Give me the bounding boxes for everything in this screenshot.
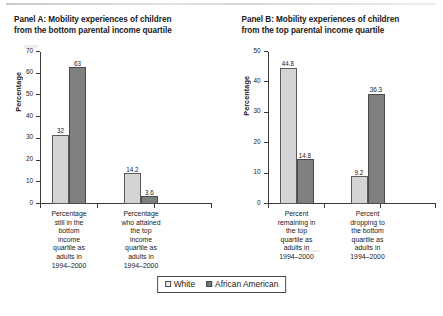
panel-b-ytick: 30 <box>264 112 268 113</box>
bar-panel-a-g1-african-american: 63 <box>69 67 86 204</box>
legend-label-african-american: African American <box>215 279 278 289</box>
cat-line: dropping to <box>335 219 401 228</box>
panel-a-title-line1: Panel A: Mobility experiences of childre… <box>14 14 214 25</box>
panel-a-title-line2: from the bottom parental income quartile <box>14 25 214 36</box>
cat-line: income <box>36 236 102 245</box>
bar-panel-a-g2-white: 14.2 <box>124 173 141 204</box>
cat-line: adults in <box>36 253 102 262</box>
panel-a-xtick <box>154 204 155 208</box>
cat-line: 1994–2000 <box>264 253 330 262</box>
bar-value-panel-b-g1-white: 44.8 <box>282 60 294 67</box>
cat-line: adults in <box>264 244 330 253</box>
panel-a-ytick-label: 70 <box>26 47 33 55</box>
panel-a-ytick-label: 30 <box>26 133 33 141</box>
bar-panel-a-g1-white: 32 <box>52 135 69 204</box>
bar-value-panel-a-g1-white: 32 <box>57 127 64 134</box>
cat-line: adults in <box>108 253 174 262</box>
cat-line: who attained <box>108 219 174 228</box>
cat-line: the top <box>264 227 330 236</box>
panel-b-ytick-label: 50 <box>253 47 260 55</box>
panel-a-category-label-2: Percentage who attained the top income q… <box>108 210 174 270</box>
cat-line: remaining in <box>264 219 330 228</box>
scan-artifact-line <box>6 3 436 5</box>
panel-b-y-axis-title: Percentage <box>242 76 251 116</box>
legend-item-african-american: African American <box>206 279 278 289</box>
cat-line: quartile as <box>108 244 174 253</box>
panel-a-ytick: 70 <box>36 51 40 52</box>
panel-a-y-axis-title: Percentage <box>14 72 23 112</box>
panel-b-ytick: 50 <box>264 51 268 52</box>
panel-a-ytick: 40 <box>36 116 40 117</box>
panel-b-title: Panel B: Mobility experiences of childre… <box>242 14 436 36</box>
bar-panel-b-g1-african-american: 14.8 <box>297 159 314 204</box>
panel-b-title-line2: from the top parental income quartile <box>242 25 436 36</box>
cat-line: Percentage <box>36 210 102 219</box>
panel-a-y-axis-line <box>40 52 41 204</box>
panel-b-plot-area: 0 10 20 30 40 50 44.8 <box>268 52 436 204</box>
panel-b-y-axis-line <box>268 52 269 204</box>
panel-a-xtick <box>40 204 41 208</box>
cat-line: 1994–2000 <box>335 253 401 262</box>
bar-value-panel-b-g1-african-american: 14.8 <box>299 152 311 159</box>
cat-line: 1994–2000 <box>108 262 174 271</box>
cat-line: the bottom <box>335 227 401 236</box>
panel-b-xtick <box>268 204 269 208</box>
bar-panel-b-g2-white: 9.2 <box>351 176 368 204</box>
bar-value-panel-a-g1-african-american: 63 <box>74 60 81 67</box>
panel-b: Panel B: Mobility experiences of childre… <box>222 14 443 266</box>
panel-a: Panel A: Mobility experiences of childre… <box>0 14 222 266</box>
panel-a-xtick <box>97 204 98 208</box>
panel-a-xtick <box>211 204 212 208</box>
chart-legend: White African American <box>157 276 287 293</box>
panel-a-ytick-label: 60 <box>26 68 33 76</box>
cat-line: still in the <box>36 219 102 228</box>
cat-line: Percent <box>264 210 330 219</box>
panel-a-ytick: 30 <box>36 138 40 139</box>
panel-b-category-label-1: Percent remaining in the top quartile as… <box>264 210 330 262</box>
cat-line: Percent <box>335 210 401 219</box>
panel-b-xtick <box>380 204 381 208</box>
panel-a-ytick-label: 40 <box>26 112 33 120</box>
panel-b-ytick: 10 <box>264 173 268 174</box>
panel-a-ytick: 10 <box>36 181 40 182</box>
panel-a-ytick: 20 <box>36 160 40 161</box>
panel-b-ytick-label: 40 <box>253 77 260 85</box>
cat-line: income <box>108 236 174 245</box>
cat-line: adults in <box>335 244 401 253</box>
panel-a-ytick-label: 0 <box>29 199 33 207</box>
bar-value-panel-b-g2-african-american: 36.3 <box>370 86 382 93</box>
panel-a-plot-area: 0 10 20 30 40 50 60 70 <box>40 52 212 204</box>
cat-line: bottom <box>36 227 102 236</box>
cat-line: quartile as <box>36 244 102 253</box>
cat-line: the top <box>108 227 174 236</box>
legend-swatch-white-icon <box>165 281 171 287</box>
panel-a-ytick: 50 <box>36 94 40 95</box>
bar-panel-b-g2-african-american: 36.3 <box>368 94 385 204</box>
cat-line: 1994–2000 <box>36 262 102 271</box>
cat-line: quartile as <box>335 236 401 245</box>
panel-a-category-label-1: Percentage still in the bottom income qu… <box>36 210 102 270</box>
panel-a-ytick-label: 50 <box>26 90 33 98</box>
bar-value-panel-a-g2-white: 14.2 <box>126 166 138 173</box>
panel-b-ytick-label: 30 <box>253 107 260 115</box>
legend-item-white: White <box>165 279 195 289</box>
cat-line: quartile as <box>264 236 330 245</box>
legend-label-white: White <box>174 279 195 289</box>
panel-b-ytick: 40 <box>264 81 268 82</box>
panel-a-ytick-label: 20 <box>26 155 33 163</box>
figure-two-panel-mobility-chart: Panel A: Mobility experiences of childre… <box>0 0 443 316</box>
panel-b-title-line1: Panel B: Mobility experiences of childre… <box>242 14 436 25</box>
bar-panel-b-g1-white: 44.8 <box>280 68 297 204</box>
panel-a-title: Panel A: Mobility experiences of childre… <box>14 14 214 36</box>
panel-a-ytick: 60 <box>36 73 40 74</box>
panel-b-ytick-label: 0 <box>257 199 261 207</box>
panel-b-xtick <box>435 204 436 208</box>
panel-b-ytick: 20 <box>264 142 268 143</box>
bar-value-panel-b-g2-white: 9.2 <box>355 169 364 176</box>
bar-panel-a-g2-african-american: 3.6 <box>141 196 158 204</box>
bar-value-panel-a-g2-african-american: 3.6 <box>145 189 154 196</box>
legend-swatch-african-american-icon <box>206 281 212 287</box>
panels-container: Panel A: Mobility experiences of childre… <box>0 14 443 266</box>
panel-b-category-label-2: Percent dropping to the bottom quartile … <box>335 210 401 262</box>
cat-line: Percentage <box>108 210 174 219</box>
